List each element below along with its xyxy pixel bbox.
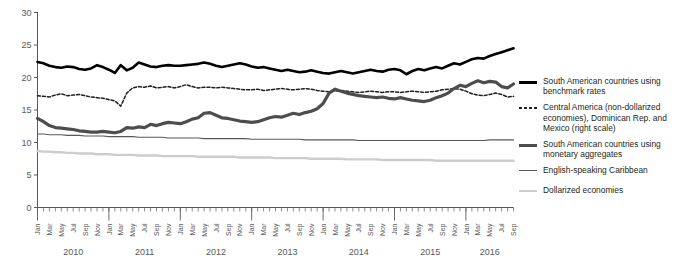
x-year-label: 2014 <box>349 247 369 257</box>
y-tick-label: 5 <box>26 170 31 180</box>
x-month-label: Mar <box>117 223 124 236</box>
x-month-label: Jan <box>106 223 113 234</box>
y-tick-label: 30 <box>21 8 31 18</box>
series-line-2 <box>38 81 514 133</box>
x-month-label: Sep <box>296 223 304 236</box>
x-month-label: Jan <box>320 223 327 234</box>
x-month-label: May <box>58 223 66 237</box>
x-month-label: May <box>201 223 209 237</box>
x-month-label: Nov <box>94 223 101 236</box>
x-month-label: Nov <box>236 223 243 236</box>
y-tick-label: 0 <box>26 203 31 213</box>
series-line-0 <box>38 48 514 74</box>
y-tick-label: 10 <box>21 138 31 148</box>
x-month-label: Mar <box>403 223 410 236</box>
legend-item[interactable]: Dollarized economies <box>519 185 678 199</box>
x-month-label: Nov <box>451 223 458 236</box>
x-month-label: Mar <box>189 223 196 236</box>
x-month-label: Jul <box>427 223 434 232</box>
x-month-label: Mar <box>332 223 339 236</box>
legend-label: Dollarized economies <box>543 185 623 195</box>
x-month-label: Sep <box>225 223 233 236</box>
x-month-label: May <box>272 223 280 237</box>
x-month-label: Sep <box>510 223 518 236</box>
x-year-label: 2012 <box>206 247 226 257</box>
series-line-3 <box>38 134 514 141</box>
legend-label: South American countries using monetary … <box>543 139 678 159</box>
x-month-label: Jan <box>177 223 184 234</box>
legend-item[interactable]: South American countries using benchmark… <box>519 76 678 96</box>
x-month-label: Mar <box>46 223 53 236</box>
legend-swatch-thick-solid-gray-icon <box>519 139 537 153</box>
chart-legend: South American countries using benchmark… <box>519 76 678 205</box>
x-month-label: Jan <box>391 223 398 234</box>
legend-swatch-thick-solid-black-icon <box>519 76 537 90</box>
x-month-label: Sep <box>439 223 447 236</box>
chart-container: 051015202530JanMarMayJulSepNovJanMarMayJ… <box>0 0 678 264</box>
legend-item[interactable]: South American countries using monetary … <box>519 139 678 159</box>
x-month-label: Jan <box>248 223 255 234</box>
legend-swatch-thin-solid-darkgray-icon <box>519 165 537 179</box>
series-line-4 <box>38 151 514 161</box>
x-month-label: Nov <box>379 223 386 236</box>
x-year-label: 2016 <box>480 247 500 257</box>
x-month-label: Jan <box>463 223 470 234</box>
x-month-label: May <box>344 223 352 237</box>
x-month-label: May <box>129 223 137 237</box>
x-year-label: 2010 <box>63 247 83 257</box>
legend-item[interactable]: English-speaking Caribbean <box>519 165 678 179</box>
x-month-label: Jul <box>355 223 362 232</box>
x-month-label: Mar <box>260 223 267 236</box>
legend-swatch-dashed-black-icon <box>519 102 537 116</box>
x-month-label: Sep <box>367 223 375 236</box>
x-year-label: 2013 <box>277 247 297 257</box>
x-month-label: Jan <box>34 223 41 234</box>
x-month-label: Sep <box>153 223 161 236</box>
x-month-label: Jul <box>70 223 77 232</box>
x-month-label: May <box>486 223 494 237</box>
legend-label: Central America (non-dollarized economie… <box>543 102 678 133</box>
y-tick-label: 20 <box>21 73 31 83</box>
legend-swatch-thin-solid-lightgray-icon <box>519 185 537 199</box>
x-month-label: May <box>415 223 423 237</box>
x-month-label: Jul <box>498 223 505 232</box>
x-month-label: Sep <box>82 223 90 236</box>
legend-item[interactable]: Central America (non-dollarized economie… <box>519 102 678 133</box>
legend-label: English-speaking Caribbean <box>543 165 648 175</box>
y-tick-label: 25 <box>21 40 31 50</box>
x-month-label: Jul <box>141 223 148 232</box>
x-year-label: 2011 <box>135 247 154 257</box>
y-tick-label: 15 <box>21 105 31 115</box>
x-month-label: Jul <box>284 223 291 232</box>
x-month-label: Jul <box>213 223 220 232</box>
x-month-label: Nov <box>308 223 315 236</box>
x-month-label: Nov <box>165 223 172 236</box>
legend-label: South American countries using benchmark… <box>543 76 678 96</box>
x-month-label: Mar <box>474 223 481 236</box>
x-year-label: 2015 <box>420 247 440 257</box>
